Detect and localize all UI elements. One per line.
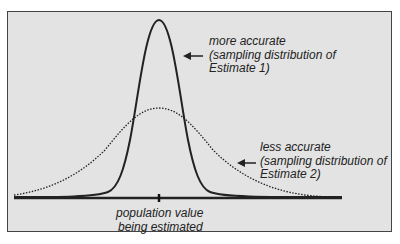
estimate2-label-line2: (sampling distribution of — [260, 155, 387, 169]
estimate1-label-line3: Estimate 1) — [209, 62, 336, 76]
population-label: population value being estimated — [116, 207, 203, 234]
estimate1-arrowhead-icon — [183, 52, 191, 60]
estimate1-label-line1: more accurate — [209, 35, 336, 49]
estimate2-label-line1: less accurate — [260, 141, 387, 155]
estimate2-arrowhead-icon — [237, 159, 245, 167]
estimate1-label-line2: (sampling distribution of — [209, 49, 336, 63]
estimate1-label: more accurate (sampling distribution of … — [209, 35, 336, 76]
estimate2-label-line3: Estimate 2) — [260, 168, 387, 182]
estimate2-label: less accurate (sampling distribution of … — [260, 141, 387, 182]
population-label-line2: being estimated — [116, 221, 203, 235]
population-label-line1: population value — [116, 207, 203, 221]
